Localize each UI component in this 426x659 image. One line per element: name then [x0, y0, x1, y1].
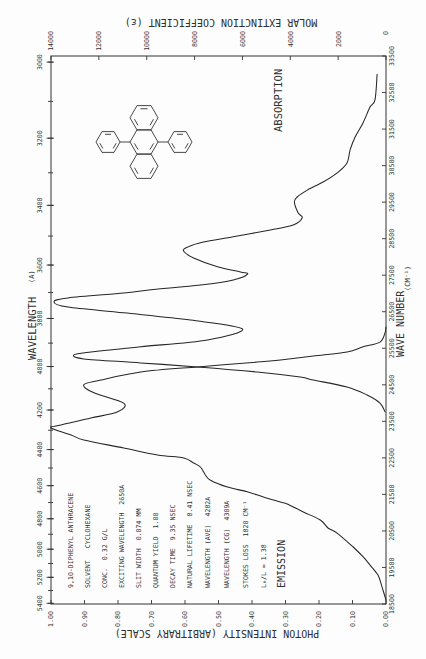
double-bond — [185, 143, 188, 148]
wave-number-tick-label: 21500 — [388, 484, 396, 504]
intensity-tick-label: 0.70 — [148, 611, 156, 627]
intensity-tick-label: 0.30 — [282, 611, 290, 627]
exciting-wavelength-line: EXCITING WAVELENGTH 2650A — [118, 485, 126, 588]
concentration-line: CONC. 0.32 G/L — [101, 528, 109, 588]
top-axis-title: MOLAR EXTINCTION COEFFICIENT (ε) — [125, 17, 318, 28]
extinction-tick-label: 12000 — [95, 31, 103, 51]
wave-number-tick-label: 28500 — [388, 229, 396, 249]
wave-number-tick-label: 22500 — [388, 448, 396, 468]
extinction-tick-label: 8000 — [191, 31, 199, 47]
intensity-tick-label: 0.80 — [114, 611, 122, 627]
intensity-tick-label: 0.50 — [215, 611, 223, 627]
natural-lifetime-line: NATURAL LIFETIME 8.41 NSEC — [186, 481, 194, 588]
wave-number-tick-label: 33500 — [388, 46, 396, 66]
spectrum-chart: 3000320034003600380040004200440046004800… — [0, 0, 426, 659]
left-axis-unit: (A) — [28, 270, 36, 283]
wavelength-ave-line: WAVELENGTH (AVE) 4282A — [204, 497, 212, 588]
wavelength-tick-label: 3600 — [36, 257, 44, 273]
wave-number-tick-label: 19500 — [388, 558, 396, 578]
wavelength-tick-label: 5400 — [36, 595, 44, 611]
wavelength-tick-label: 4600 — [36, 478, 44, 494]
wave-number-tick-label: 18500 — [388, 594, 396, 614]
plot-frame — [51, 56, 386, 604]
spectrum-page: 3000320034003600380040004200440046004800… — [0, 0, 426, 659]
wave-number-tick-label: 23500 — [388, 411, 396, 431]
extinction-tick-label: 6000 — [239, 31, 247, 47]
wavelength-tick-label: 5200 — [36, 569, 44, 585]
intensity-tick-label: 1.00 — [47, 611, 55, 627]
right-axis-unit: (CM⁻¹) — [404, 266, 412, 291]
intensity-tick-label: 0.40 — [248, 611, 256, 627]
wavelength-tick-label: 3200 — [36, 130, 44, 146]
absorption-curve — [54, 74, 385, 412]
stokes-loss-line: STOKES LOSS 1820 CM⁻¹ — [242, 501, 250, 588]
molecule-structure-icon — [96, 106, 192, 179]
emission-label: EMISSION — [276, 540, 287, 588]
intensity-tick-label: 0.60 — [181, 611, 189, 627]
double-bond — [150, 143, 154, 149]
wave-number-tick-label: 24500 — [388, 375, 396, 395]
wavelength-tick-label: 4200 — [36, 402, 44, 418]
quantum-yield-line: QUANTUM YIELD 1.00 — [152, 513, 160, 588]
compound-name: 9,10-DIPHENYL ANTHRACENE — [67, 493, 75, 588]
anthracene-ring-middle — [130, 130, 158, 154]
extinction-tick-label: 14000 — [47, 31, 55, 51]
decay-time-line: DECAY TIME 9.35 NSEC — [169, 505, 177, 588]
intensity-tick-label: 0.00 — [382, 611, 390, 627]
bottom-axis-title: PHOTON INTENSITY (ARBITRARY SCALE) — [115, 628, 320, 639]
extinction-tick-label: 2000 — [335, 31, 343, 47]
lo-over-l-line: L₀/L = 1.38 — [260, 544, 268, 588]
wave-number-tick-label: 29500 — [388, 192, 396, 212]
wavelength-tick-label: 5000 — [36, 541, 44, 557]
double-bond — [150, 119, 154, 125]
double-bond — [113, 143, 116, 148]
extinction-tick-label: 10000 — [143, 31, 151, 51]
wavelength-tick-label: 3400 — [36, 197, 44, 213]
wave-number-tick-label: 30500 — [388, 156, 396, 176]
wave-number-tick-label: 31500 — [388, 119, 396, 139]
extinction-tick-label: 4000 — [287, 31, 295, 47]
wavelength-tick-label: 4800 — [36, 511, 44, 527]
double-bond — [134, 143, 138, 149]
intensity-tick-label: 0.20 — [315, 611, 323, 627]
wavelength-tick-label: 3800 — [36, 311, 44, 327]
sample-info-block: 9,10-DIPHENYL ANTHRACENE SOLVENT CYCLOHE… — [67, 481, 268, 588]
extinction-tick-label: 0 — [382, 31, 390, 35]
double-bond — [172, 143, 175, 148]
left-axis-title: WAVELENGTH — [26, 297, 38, 360]
wavelength-tick-label: 4400 — [36, 442, 44, 458]
wave-number-tick-label: 20500 — [388, 521, 396, 541]
solvent-line: SOLVENT CYCLOHEXANE — [84, 505, 92, 588]
wavelength-tick-label: 4000 — [36, 359, 44, 375]
slit-width-line: SLIT WIDTH 0.074 MM — [135, 509, 143, 588]
double-bond — [134, 119, 138, 125]
double-bond — [150, 168, 154, 174]
right-axis-title: WAVE NUMBER — [395, 290, 406, 357]
anthracene-ring-bottom — [130, 154, 158, 178]
absorption-label: ABSORPTION — [272, 69, 284, 132]
wave-number-tick-label: 27500 — [388, 265, 396, 285]
anthracene-ring-top — [130, 106, 158, 130]
intensity-tick-label: 0.10 — [349, 611, 357, 627]
wave-number-tick-label: 32500 — [388, 83, 396, 103]
double-bond — [134, 168, 138, 174]
intensity-tick-label: 0.90 — [81, 611, 89, 627]
double-bond — [100, 143, 103, 148]
wavelength-tick-label: 3000 — [36, 54, 44, 70]
wavelength-cg-line: WAVELENGTH (CG) 4309A — [223, 501, 231, 588]
